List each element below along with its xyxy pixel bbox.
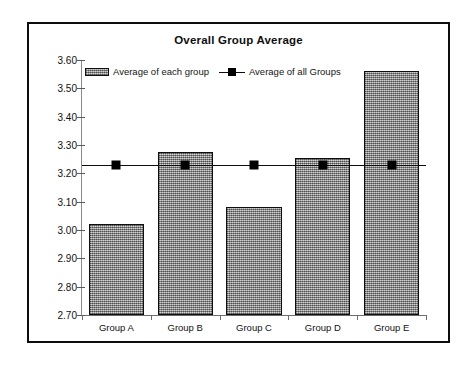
y-tick-label: 3.60 <box>58 55 77 66</box>
y-tick-mark <box>77 258 85 259</box>
average-marker <box>112 160 121 169</box>
bar-group-d <box>295 158 350 315</box>
x-tick-mark <box>82 315 83 320</box>
y-tick-mark <box>77 287 85 288</box>
y-tick-mark <box>77 230 85 231</box>
x-tick-label: Group C <box>236 322 272 333</box>
y-axis-tick-labels: 3.603.503.403.303.203.103.002.902.802.70 <box>37 60 77 315</box>
y-tick-label: 2.90 <box>58 253 77 264</box>
x-tick-mark <box>220 315 221 320</box>
chart-title: Overall Group Average <box>29 34 448 46</box>
bar-group-b <box>158 152 213 315</box>
bar-group-e <box>364 71 419 315</box>
x-tick-mark <box>357 315 358 320</box>
x-axis-tick-labels: Group AGroup BGroup CGroup DGroup E <box>82 322 426 340</box>
y-tick-label: 3.30 <box>58 140 77 151</box>
y-tick-mark <box>77 173 85 174</box>
x-tick-label: Group A <box>99 322 134 333</box>
y-tick-label: 3.20 <box>58 168 77 179</box>
average-marker <box>250 160 259 169</box>
y-tick-label: 3.40 <box>58 111 77 122</box>
y-tick-label: 3.00 <box>58 225 77 236</box>
bar-group-a <box>89 224 144 315</box>
y-tick-label: 2.70 <box>58 310 77 321</box>
y-tick-mark <box>77 145 85 146</box>
y-tick-mark <box>77 88 85 89</box>
bar-group-c <box>226 207 281 315</box>
y-tick-label: 3.10 <box>58 196 77 207</box>
x-tick-mark <box>288 315 289 320</box>
x-tick-label: Group D <box>305 322 341 333</box>
average-marker <box>181 160 190 169</box>
plot-area <box>82 60 426 315</box>
y-tick-mark <box>77 202 85 203</box>
y-tick-mark <box>77 60 85 61</box>
x-tick-label: Group E <box>374 322 409 333</box>
x-axis-line <box>81 315 426 316</box>
chart-frame: Overall Group Average Average of each gr… <box>27 22 450 343</box>
x-tick-label: Group B <box>167 322 202 333</box>
average-marker <box>387 160 396 169</box>
y-tick-mark <box>77 315 85 316</box>
x-tick-mark <box>426 315 427 320</box>
y-tick-mark <box>77 117 85 118</box>
average-marker <box>318 160 327 169</box>
y-tick-label: 3.50 <box>58 83 77 94</box>
y-tick-label: 2.80 <box>58 281 77 292</box>
x-tick-mark <box>151 315 152 320</box>
